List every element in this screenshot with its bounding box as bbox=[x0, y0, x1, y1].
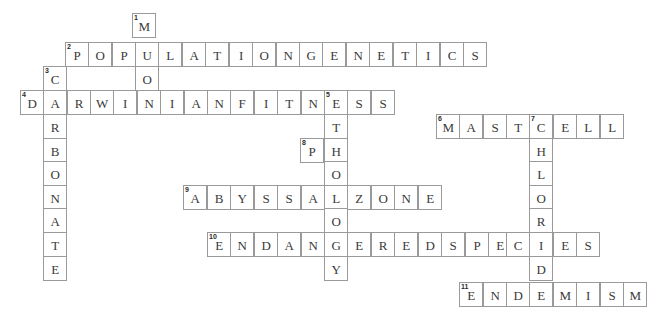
crossword-cell[interactable]: O bbox=[529, 185, 553, 210]
crossword-cell[interactable]: T bbox=[277, 90, 301, 115]
crossword-cell[interactable]: O bbox=[324, 208, 348, 233]
crossword-cell[interactable]: G bbox=[324, 232, 348, 257]
crossword-cell[interactable]: 6M bbox=[436, 114, 460, 139]
crossword-cell[interactable]: T bbox=[324, 114, 348, 139]
crossword-cell[interactable]: D bbox=[506, 282, 530, 307]
crossword-cell[interactable]: M bbox=[553, 282, 577, 307]
crossword-cell[interactable]: T bbox=[506, 114, 530, 139]
crossword-cell[interactable]: E bbox=[347, 232, 371, 257]
crossword-cell[interactable]: N bbox=[43, 185, 67, 210]
crossword-cell[interactable]: 8P bbox=[300, 138, 324, 163]
crossword-cell[interactable]: G bbox=[299, 42, 323, 67]
crossword-cell[interactable]: L bbox=[529, 161, 553, 186]
crossword-cell[interactable]: Y bbox=[230, 185, 254, 210]
crossword-cell[interactable]: S bbox=[463, 42, 487, 67]
crossword-cell[interactable]: R bbox=[67, 90, 91, 115]
crossword-cell[interactable]: Y bbox=[324, 256, 348, 281]
crossword-cell[interactable]: A bbox=[43, 208, 67, 233]
crossword-cell[interactable]: Z bbox=[347, 185, 371, 210]
crossword-cell[interactable]: F bbox=[230, 90, 254, 115]
crossword-cell[interactable]: C bbox=[506, 232, 530, 257]
crossword-cell[interactable]: N bbox=[394, 185, 418, 210]
cell-letter: L bbox=[608, 121, 616, 134]
crossword-cell[interactable]: D bbox=[418, 232, 442, 257]
crossword-cell[interactable]: U bbox=[135, 42, 159, 67]
crossword-cell[interactable]: P bbox=[465, 232, 489, 257]
crossword-cell[interactable]: T bbox=[393, 42, 417, 67]
crossword-cell[interactable]: 11E bbox=[459, 282, 483, 307]
crossword-cell[interactable]: T bbox=[43, 232, 67, 257]
crossword-cell[interactable]: A bbox=[184, 90, 208, 115]
crossword-cell[interactable]: A bbox=[301, 185, 325, 210]
crossword-cell[interactable]: A bbox=[43, 90, 67, 115]
crossword-cell[interactable]: S bbox=[371, 90, 395, 115]
crossword-cell[interactable]: A bbox=[459, 114, 483, 139]
crossword-cell[interactable]: I bbox=[529, 232, 553, 257]
crossword-cell[interactable]: 1M bbox=[132, 13, 156, 38]
crossword-cell[interactable]: S bbox=[600, 282, 624, 307]
crossword-cell[interactable]: E bbox=[43, 256, 67, 281]
crossword-cell[interactable]: 10E bbox=[207, 232, 231, 257]
crossword-cell[interactable]: N bbox=[301, 232, 325, 257]
crossword-cell[interactable]: E bbox=[553, 114, 577, 139]
crossword-cell[interactable]: B bbox=[43, 138, 67, 163]
crossword-cell[interactable]: O bbox=[324, 161, 348, 186]
crossword-cell[interactable]: E bbox=[322, 42, 346, 67]
crossword-cell[interactable]: D bbox=[529, 256, 553, 281]
crossword-cell[interactable]: S bbox=[254, 185, 278, 210]
crossword-cell[interactable]: S bbox=[576, 232, 600, 257]
crossword-cell[interactable]: B bbox=[207, 185, 231, 210]
crossword-cell[interactable]: R bbox=[371, 232, 395, 257]
crossword-cell[interactable]: S bbox=[347, 90, 371, 115]
crossword-cell[interactable]: I bbox=[254, 90, 278, 115]
crossword-cell[interactable]: I bbox=[229, 42, 253, 67]
cell-letter: N bbox=[284, 49, 293, 62]
crossword-cell[interactable]: 7C bbox=[529, 114, 553, 139]
crossword-cell[interactable]: E bbox=[369, 42, 393, 67]
crossword-cell[interactable]: A bbox=[182, 42, 206, 67]
crossword-cell[interactable]: N bbox=[137, 90, 161, 115]
crossword-cell[interactable]: M bbox=[623, 282, 647, 307]
crossword-cell[interactable]: O bbox=[88, 42, 112, 67]
crossword-cell[interactable]: H bbox=[324, 138, 348, 163]
crossword-cell[interactable]: L bbox=[324, 185, 348, 210]
crossword-cell[interactable]: R bbox=[529, 208, 553, 233]
crossword-cell[interactable]: I bbox=[576, 282, 600, 307]
crossword-cell[interactable]: N bbox=[346, 42, 370, 67]
crossword-cell[interactable]: 2P bbox=[65, 42, 89, 67]
crossword-cell[interactable]: N bbox=[301, 90, 325, 115]
crossword-cell[interactable]: N bbox=[483, 282, 507, 307]
crossword-cell[interactable]: L bbox=[600, 114, 624, 139]
crossword-cell[interactable]: E bbox=[553, 232, 577, 257]
crossword-cell[interactable]: O bbox=[252, 42, 276, 67]
crossword-cell[interactable]: I bbox=[416, 42, 440, 67]
crossword-cell[interactable]: E bbox=[418, 185, 442, 210]
crossword-cell[interactable]: O bbox=[371, 185, 395, 210]
crossword-cell[interactable]: N bbox=[276, 42, 300, 67]
crossword-cell[interactable]: R bbox=[43, 114, 67, 139]
crossword-cell[interactable]: 4D bbox=[20, 90, 44, 115]
crossword-cell[interactable]: O bbox=[135, 66, 159, 91]
crossword-cell[interactable]: 9A bbox=[183, 185, 207, 210]
crossword-cell[interactable]: L bbox=[576, 114, 600, 139]
crossword-cell[interactable]: S bbox=[441, 232, 465, 257]
crossword-cell[interactable]: I bbox=[160, 90, 184, 115]
crossword-cell[interactable]: W bbox=[90, 90, 114, 115]
crossword-cell[interactable]: 3C bbox=[43, 66, 67, 91]
crossword-cell[interactable]: 5E bbox=[324, 90, 348, 115]
crossword-cell[interactable]: L bbox=[158, 42, 182, 67]
crossword-cell[interactable]: A bbox=[277, 232, 301, 257]
crossword-cell[interactable]: H bbox=[529, 138, 553, 163]
crossword-cell[interactable]: T bbox=[205, 42, 229, 67]
crossword-cell[interactable]: N bbox=[230, 232, 254, 257]
crossword-cell[interactable]: E bbox=[529, 282, 553, 307]
crossword-cell[interactable]: P bbox=[112, 42, 136, 67]
crossword-cell[interactable]: I bbox=[113, 90, 137, 115]
crossword-cell[interactable]: S bbox=[483, 114, 507, 139]
crossword-cell[interactable]: D bbox=[254, 232, 278, 257]
crossword-cell[interactable]: N bbox=[207, 90, 231, 115]
crossword-cell[interactable]: S bbox=[277, 185, 301, 210]
crossword-cell[interactable]: C bbox=[440, 42, 464, 67]
crossword-cell[interactable]: O bbox=[43, 161, 67, 186]
crossword-cell[interactable]: E bbox=[394, 232, 418, 257]
